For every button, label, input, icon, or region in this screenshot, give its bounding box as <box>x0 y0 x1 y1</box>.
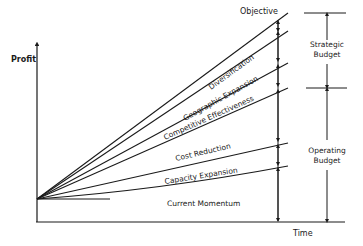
layer-label-cost-reduction: Cost Reduction <box>174 141 231 163</box>
objective-label: Objective <box>240 7 278 16</box>
strategic-budget-label-1: Strategic <box>310 40 344 49</box>
x-axis-label: Time <box>292 229 313 238</box>
operating-budget-label-1: Operating <box>308 146 346 155</box>
strategic-budget-label-2: Budget <box>314 50 341 59</box>
y-axis-label: Profit <box>11 55 36 64</box>
operating-budget-label-2: Budget <box>314 156 341 165</box>
profit-lines <box>37 13 288 199</box>
gap-analysis-diagram: Profit Time Objective Diversification Ge… <box>0 0 363 246</box>
layer-label-current-momentum: Current Momentum <box>167 199 240 208</box>
line-competitive-effectiveness <box>37 88 288 199</box>
